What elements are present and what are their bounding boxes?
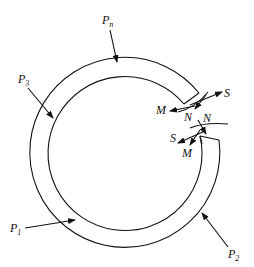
label-p2: P2	[227, 247, 239, 263]
load-arrow-pn	[110, 30, 117, 62]
label-lower-n: N	[202, 111, 212, 125]
label-p1: P1	[9, 221, 21, 237]
load-arrow-p2	[202, 213, 228, 247]
label-lower-s: S	[170, 131, 176, 145]
label-lower-m: M	[181, 146, 193, 160]
label-pn: Pn	[101, 13, 113, 29]
ring-diagram: Pn P3 P1 P2 S M N N S M	[0, 0, 254, 267]
load-arrows	[25, 30, 228, 247]
label-upper-s: S	[224, 86, 230, 100]
label-p3: P3	[17, 72, 29, 88]
load-arrow-p1	[25, 220, 75, 228]
load-arrow-p3	[28, 88, 53, 118]
label-upper-m: M	[155, 103, 167, 117]
label-upper-n: N	[183, 110, 193, 124]
